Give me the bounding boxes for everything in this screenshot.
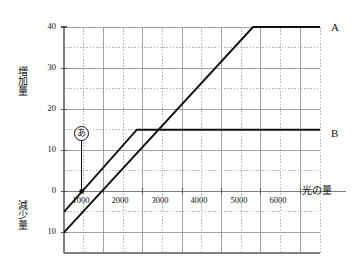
x-tick-label: 6000 bbox=[261, 196, 295, 205]
series-label-b: B bbox=[331, 127, 338, 139]
x-tick-label: 5000 bbox=[222, 196, 256, 205]
y-tick-label: 10 bbox=[34, 227, 56, 236]
y-axis-title-top: 増加量 bbox=[16, 66, 27, 96]
y-tick-label: 20 bbox=[34, 104, 56, 113]
series-label-a: A bbox=[331, 21, 339, 33]
annotation-marker-a: あ bbox=[74, 126, 89, 141]
x-axis-title: 光の量 bbox=[302, 185, 332, 196]
chart-plot-area bbox=[0, 0, 356, 260]
x-tick-label: 2000 bbox=[103, 196, 137, 205]
y-tick-label: 10 bbox=[34, 145, 56, 154]
x-tick-label: 1000 bbox=[64, 196, 98, 205]
y-tick-label: 40 bbox=[34, 22, 56, 31]
y-axis-title-bottom: 減少量 bbox=[16, 200, 27, 230]
chart-figure: 40 30 20 10 0 10 1000 2000 3000 4000 500… bbox=[0, 0, 356, 260]
annotation-point-dot bbox=[79, 189, 84, 194]
x-tick-label: 4000 bbox=[182, 196, 216, 205]
minor-vertical-gridlines bbox=[84, 27, 320, 253]
x-tick-label: 3000 bbox=[143, 196, 177, 205]
y-tick-label: 30 bbox=[34, 63, 56, 72]
chart-axes bbox=[64, 27, 346, 253]
y-tick-label: 0 bbox=[34, 186, 56, 195]
